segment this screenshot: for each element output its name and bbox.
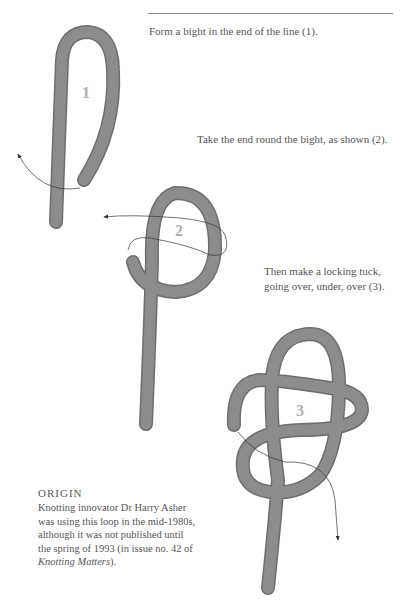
origin-section: ORIGIN Knotting innovator Dr Harry Asher…	[38, 487, 238, 569]
origin-title: ORIGIN	[38, 487, 238, 499]
origin-line-end: ).	[110, 556, 116, 567]
step1-label: 1	[82, 84, 90, 101]
origin-line: although it was not published until	[38, 528, 238, 542]
arrow-step1	[18, 154, 80, 189]
figure-step2: 2	[104, 193, 227, 424]
figure-step1: 1	[18, 32, 113, 222]
origin-line: Knotting innovator Dr Harry Asher	[38, 501, 238, 515]
origin-line: the spring of 1993 (in issue no. 42 of	[38, 542, 238, 556]
figure-step3: 3	[234, 334, 362, 588]
step3-label: 3	[296, 402, 304, 419]
origin-line: Knotting Matters).	[38, 555, 238, 569]
origin-line: was using this loop in the mid-1980s,	[38, 515, 238, 529]
origin-body: Knotting innovator Dr Harry Asher was us…	[38, 501, 238, 569]
step2-label: 2	[175, 222, 183, 239]
publication-title: Knotting Matters	[38, 556, 110, 567]
